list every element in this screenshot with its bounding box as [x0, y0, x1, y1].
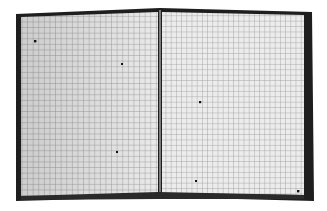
grid-photo [0, 0, 327, 211]
right-grid-panel [162, 12, 304, 195]
